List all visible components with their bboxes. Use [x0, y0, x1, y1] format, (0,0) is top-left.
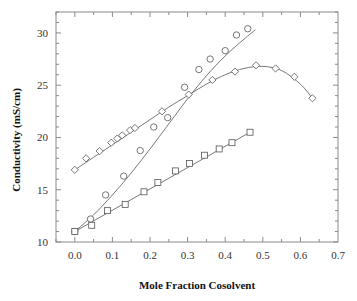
diamond-marker: [108, 139, 115, 146]
circle-marker: [120, 173, 126, 179]
conductivity-chart: 0.00.10.20.30.40.50.60.71015202530 Mole …: [0, 0, 357, 301]
data-markers: [71, 26, 316, 235]
diamond-marker: [272, 65, 279, 72]
x-tick-label: 0.7: [331, 249, 345, 261]
circles-fit-line: [75, 30, 255, 232]
diamonds-fit-line: [75, 66, 313, 170]
x-tick-label: 0.1: [106, 249, 120, 261]
diamond-marker: [291, 73, 298, 80]
square-marker: [229, 140, 235, 146]
square-marker: [155, 179, 161, 185]
square-marker: [202, 152, 208, 158]
diamond-marker: [96, 147, 103, 154]
axis-ticks: [56, 12, 338, 242]
circle-marker: [233, 32, 239, 38]
diamond-marker: [158, 108, 165, 115]
y-tick-label: 20: [37, 131, 49, 143]
square-marker: [89, 222, 95, 228]
fit-curves: [75, 30, 313, 232]
circle-marker: [102, 192, 108, 198]
x-tick-label: 0.4: [218, 249, 232, 261]
x-axis-title: Mole Fraction Cosolvent: [139, 279, 255, 291]
diamond-marker: [185, 91, 192, 98]
y-axis-title: Conductivity (mS/cm): [10, 88, 23, 192]
square-marker: [186, 161, 192, 167]
square-marker: [216, 146, 222, 152]
square-marker: [141, 189, 147, 195]
plot-border: [56, 12, 338, 242]
y-tick-label: 30: [37, 27, 49, 39]
circle-marker: [151, 124, 157, 130]
square-marker: [247, 129, 253, 135]
circle-marker: [222, 47, 228, 53]
x-tick-label: 0.6: [294, 249, 308, 261]
square-marker: [72, 229, 78, 235]
circle-marker: [207, 56, 213, 62]
circle-marker: [164, 114, 170, 120]
tick-labels: 0.00.10.20.30.40.50.60.71015202530: [37, 27, 345, 261]
circle-marker: [181, 84, 187, 90]
circle-marker: [137, 147, 143, 153]
square-marker: [122, 201, 128, 207]
x-tick-label: 0.3: [181, 249, 195, 261]
y-tick-label: 25: [37, 79, 49, 91]
plot-frame: [56, 12, 338, 242]
x-tick-label: 0.5: [256, 249, 270, 261]
circle-marker: [196, 66, 202, 72]
y-tick-label: 10: [37, 236, 49, 248]
diamond-marker: [231, 68, 238, 75]
squares-fit-line: [75, 132, 250, 231]
circle-marker: [87, 216, 93, 222]
diamond-marker: [71, 166, 78, 173]
diamond-marker: [309, 95, 316, 102]
y-tick-label: 15: [37, 184, 49, 196]
square-marker: [173, 168, 179, 174]
x-tick-label: 0.0: [68, 249, 82, 261]
square-marker: [105, 208, 111, 214]
x-tick-label: 0.2: [143, 249, 157, 261]
circle-marker: [245, 26, 251, 32]
diamond-marker: [252, 62, 259, 69]
